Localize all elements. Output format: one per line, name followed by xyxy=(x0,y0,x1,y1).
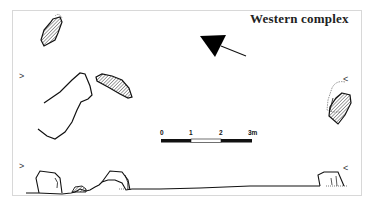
section-marker-right-upper: < xyxy=(343,74,348,84)
section-marker-left-lower: > xyxy=(19,161,24,171)
scale-tick-3m: 3m xyxy=(248,129,257,136)
section-marker-right-lower: < xyxy=(343,163,348,173)
site-plan-drawing xyxy=(0,0,373,208)
scale-tick-0: 0 xyxy=(160,129,164,136)
hatched-stone-top-left xyxy=(41,14,62,46)
hatched-stone-middle xyxy=(96,74,132,98)
scale-tick-2: 2 xyxy=(219,129,223,136)
hatched-stone-right xyxy=(327,82,351,124)
scale-tick-1: 1 xyxy=(189,129,193,136)
hatched-stone-elevation xyxy=(72,186,86,192)
outline-stone-large xyxy=(38,73,92,139)
north-arrow-icon xyxy=(200,35,246,57)
plan-title: Western complex xyxy=(250,11,349,27)
scale-bar xyxy=(161,139,252,143)
section-marker-left-upper: > xyxy=(19,71,24,81)
